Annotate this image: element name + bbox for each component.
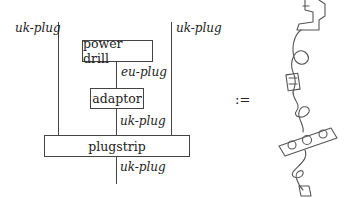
power-drill-box: power drill	[82, 40, 153, 62]
wire-left-outer	[58, 22, 59, 144]
power-drill-illustration	[275, 0, 347, 198]
label-adaptor-plugstrip: uk-plug	[120, 114, 166, 128]
wire-right-outer	[171, 22, 172, 144]
wire-drill-adaptor	[116, 62, 117, 88]
definition-symbol: :=	[235, 92, 250, 107]
wire-plugstrip-output	[116, 157, 117, 184]
plugstrip-box: plugstrip	[44, 135, 190, 157]
label-plugstrip-output: uk-plug	[120, 160, 166, 174]
label-left-outer: uk-plug	[15, 21, 61, 35]
label-drill-adaptor: eu-plug	[121, 65, 167, 79]
label-right-outer: uk-plug	[176, 21, 222, 35]
adaptor-box: adaptor	[90, 88, 144, 109]
